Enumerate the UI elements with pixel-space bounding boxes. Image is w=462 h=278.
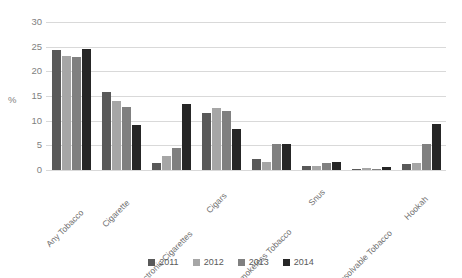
bar xyxy=(182,104,191,170)
x-tick-label: Dissolvable Tobacco xyxy=(346,172,396,242)
bar xyxy=(412,163,421,170)
bar xyxy=(72,57,81,170)
x-tick-label: Hookah xyxy=(396,172,446,242)
y-tick-label: 20 xyxy=(2,67,42,77)
bar-group xyxy=(346,22,396,170)
legend-label: 2011 xyxy=(159,258,178,267)
legend-swatch-icon xyxy=(238,259,245,266)
bar xyxy=(282,144,291,170)
legend-swatch-icon xyxy=(193,259,200,266)
bar-group xyxy=(96,22,146,170)
x-tick-label: Snus xyxy=(296,172,346,242)
bar xyxy=(272,144,281,170)
bar xyxy=(82,49,91,170)
legend-item[interactable]: 2011 xyxy=(148,258,178,267)
bar-group xyxy=(196,22,246,170)
legend-swatch-icon xyxy=(283,259,290,266)
legend-label: 2014 xyxy=(294,258,314,267)
x-tick-label: Any Tobacco xyxy=(46,172,96,242)
y-tick-label: 15 xyxy=(2,91,42,101)
bar xyxy=(52,50,61,170)
legend-item[interactable]: 2012 xyxy=(193,258,224,267)
legend-item[interactable]: 2013 xyxy=(238,258,269,267)
bar xyxy=(202,113,211,170)
y-tick-label: 30 xyxy=(2,17,42,27)
bar xyxy=(172,148,181,170)
bar xyxy=(62,56,71,170)
x-axis-labels: Any TobaccoCigaretteElectronic Cigarette… xyxy=(46,172,446,242)
y-tick-label: 10 xyxy=(2,116,42,126)
y-axis-ticks: 051015202530 xyxy=(0,0,42,278)
y-tick-label: 0 xyxy=(2,165,42,175)
bar xyxy=(162,156,171,170)
bar xyxy=(112,101,121,170)
bar xyxy=(122,107,131,170)
bar xyxy=(262,162,271,170)
bar xyxy=(322,163,331,170)
x-tick-label: Electronic Cigarettes xyxy=(146,172,196,242)
bar-chart: % 051015202530 Any TobaccoCigaretteElect… xyxy=(0,0,462,278)
bar xyxy=(432,124,441,170)
x-tick-label: Smokeless Tobacco xyxy=(246,172,296,242)
bar xyxy=(252,159,261,170)
bar-groups xyxy=(46,22,446,170)
bar xyxy=(212,108,221,170)
legend-label: 2012 xyxy=(204,258,224,267)
bar xyxy=(222,111,231,170)
x-tick-label: Cigars xyxy=(196,172,246,242)
bar-group xyxy=(296,22,346,170)
bar-group xyxy=(396,22,446,170)
chart-legend: 2011201220132014 xyxy=(0,258,462,267)
x-tick-label: Cigarette xyxy=(96,172,146,242)
bar xyxy=(232,129,241,170)
legend-swatch-icon xyxy=(148,259,155,266)
bar xyxy=(152,163,161,170)
legend-item[interactable]: 2014 xyxy=(283,258,314,267)
bar-group xyxy=(146,22,196,170)
y-tick-label: 5 xyxy=(2,141,42,151)
bar xyxy=(102,92,111,170)
x-axis-line xyxy=(46,170,446,171)
bar xyxy=(132,125,141,170)
bar-group xyxy=(46,22,96,170)
bar xyxy=(332,162,341,170)
y-tick-label: 25 xyxy=(2,42,42,52)
legend-label: 2013 xyxy=(249,258,269,267)
bar-group xyxy=(246,22,296,170)
bar xyxy=(422,144,431,170)
